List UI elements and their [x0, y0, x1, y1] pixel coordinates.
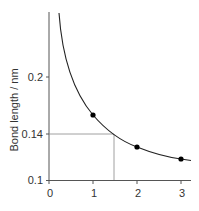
- data-point-bond-order-2: [134, 144, 139, 149]
- guide-lines: [49, 134, 114, 180]
- y-tick-label: 0.14: [22, 128, 43, 140]
- x-tick-label: 3: [179, 187, 185, 199]
- x-tick-label: 0: [47, 187, 53, 199]
- y-axis-title: Bond length / nm: [8, 68, 20, 151]
- bond-length-curve: [59, 13, 191, 161]
- chart-canvas: 0.2 0.14 0.1 0 1 2 3 Bond length / nm: [0, 0, 199, 211]
- y-tick-label: 0.2: [28, 71, 43, 83]
- x-tick-label: 2: [135, 187, 141, 199]
- y-tick-label: 0.1: [28, 174, 43, 186]
- x-tick-label: 1: [91, 187, 97, 199]
- data-point-bond-order-1: [90, 112, 95, 117]
- data-point-bond-order-3: [178, 156, 183, 161]
